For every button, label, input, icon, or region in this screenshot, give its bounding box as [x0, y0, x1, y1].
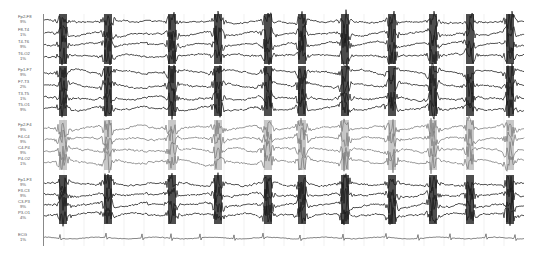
channel-label: F4-C49% [18, 135, 30, 144]
channel-label: T3-T51% [18, 92, 29, 101]
channel-label: F8-T41% [18, 28, 29, 37]
channel-label: T5-O19% [18, 103, 30, 112]
channel-sensitivity: 9% [18, 73, 32, 78]
channel-label: T6-O21% [18, 52, 30, 61]
channel-sensitivity: 9% [18, 45, 29, 50]
eeg-waveform-chart [0, 0, 542, 259]
channel-sensitivity: 1% [18, 162, 30, 167]
channel-label-column: Fp2-F89%F8-T41%T4-T69%T6-O21%Fp1-F79%F7-… [14, 0, 40, 259]
channel-sensitivity: 9% [18, 151, 30, 156]
channel-label: Fp2-F89% [18, 15, 32, 24]
channel-sensitivity: 4% [18, 216, 30, 221]
channel-sensitivity: 1% [18, 33, 29, 38]
channel-label: T4-T69% [18, 40, 29, 49]
channel-sensitivity: 9% [18, 205, 30, 210]
channel-label: C4-P49% [18, 146, 30, 155]
channel-label: F7-T32% [18, 80, 29, 89]
channel-axis-line [43, 14, 44, 246]
burst-shading [59, 14, 514, 224]
channel-sensitivity: 9% [18, 20, 32, 25]
channel-label: P4-O21% [18, 157, 30, 166]
channel-label: P3-O14% [18, 211, 30, 220]
time-gridlines [64, 14, 504, 246]
channel-sensitivity: 9% [18, 140, 30, 145]
channel-sensitivity: 9% [18, 183, 32, 188]
channel-sensitivity: 1% [18, 57, 30, 62]
channel-sensitivity: 9% [18, 128, 32, 133]
channel-label: Fp1-F39% [18, 178, 32, 187]
channel-sensitivity: 9% [18, 108, 30, 113]
channel-sensitivity: 9% [18, 194, 30, 199]
channel-sensitivity: 2% [18, 85, 29, 90]
channel-label: ECG1% [18, 233, 27, 242]
channel-label: Fp1-F79% [18, 68, 32, 77]
channel-label: C3-P39% [18, 200, 30, 209]
channel-label: F3-C39% [18, 189, 30, 198]
channel-sensitivity: 1% [18, 97, 29, 102]
channel-sensitivity: 1% [18, 238, 27, 243]
channel-label: Fp2-F49% [18, 123, 32, 132]
